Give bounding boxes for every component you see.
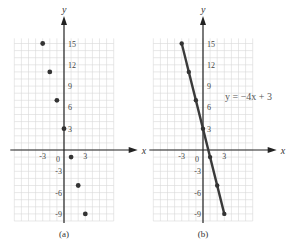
data-point [208, 155, 212, 159]
data-point [55, 98, 60, 103]
y-axis-label: y [61, 4, 67, 15]
y-tick-label: 6 [207, 103, 211, 112]
y-tick-label: 15 [207, 40, 215, 49]
x-tick-label: 0 [195, 155, 199, 164]
data-point [40, 41, 45, 46]
y-tick-label: 12 [68, 61, 76, 70]
x-axis-label: x [280, 145, 286, 156]
x-axis-arrow-icon [129, 147, 138, 153]
y-tick-label: -9 [194, 210, 201, 219]
data-point [47, 70, 52, 75]
data-point [69, 155, 74, 160]
y-axis-label: y [200, 4, 206, 15]
x-tick-label: -3 [39, 152, 46, 161]
x-tick-label: -3 [178, 152, 185, 161]
y-tick-label: 12 [207, 61, 215, 70]
y-tick-label: 3 [68, 125, 72, 134]
y-tick-label: 15 [68, 40, 76, 49]
chart-figure: xy-3031512963-3-6-9 xy-3031512963-3-6-9y… [0, 0, 296, 245]
data-point [194, 98, 198, 102]
data-point [83, 212, 88, 217]
x-tick-label: 3 [222, 152, 226, 161]
y-tick-label: -9 [55, 210, 62, 219]
data-point [222, 212, 226, 216]
caption-b: (b) [198, 229, 209, 239]
data-point [180, 41, 184, 45]
y-tick-label: -6 [55, 189, 62, 198]
data-point [76, 183, 81, 188]
x-tick-label: 3 [83, 152, 87, 161]
equation-annotation: y = −4x + 3 [225, 91, 272, 102]
y-tick-label: -3 [55, 167, 62, 176]
data-point [215, 183, 219, 187]
y-axis-arrow-icon [61, 16, 67, 25]
y-tick-label: 9 [68, 82, 72, 91]
data-point [201, 127, 205, 131]
panel-a-scatter: xy-3031512963-3-6-9 [10, 4, 146, 223]
x-axis-label: x [141, 145, 147, 156]
x-axis-arrow-icon [268, 147, 277, 153]
caption-a: (a) [59, 229, 69, 239]
y-tick-label: -3 [194, 167, 201, 176]
y-tick-label: 9 [207, 82, 211, 91]
data-point [187, 70, 191, 74]
y-axis-arrow-icon [200, 16, 206, 25]
y-tick-label: -6 [194, 189, 201, 198]
y-tick-label: 6 [68, 103, 72, 112]
y-tick-label: 3 [207, 125, 211, 134]
panel-b-line: xy-3031512963-3-6-9y = −4x + 3 [149, 4, 285, 223]
x-tick-label: 0 [56, 155, 60, 164]
data-point [62, 126, 67, 131]
